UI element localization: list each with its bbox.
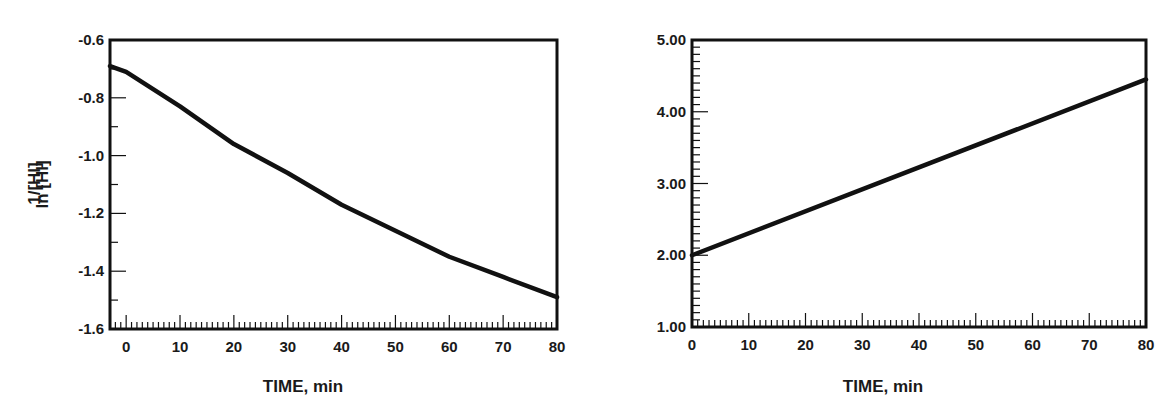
y-tick-label: 5.00 (657, 31, 686, 48)
plot-frame (692, 40, 1146, 327)
x-tick-label: 60 (1024, 336, 1041, 353)
x-tick-label: 70 (495, 338, 512, 355)
y-tick-label: -1.2 (78, 204, 104, 221)
y-tick-label: -0.8 (78, 89, 104, 106)
x-axis-title: TIME, min (843, 377, 923, 396)
x-tick-label: 50 (967, 336, 984, 353)
x-tick-label: 30 (854, 336, 871, 353)
y-tick-label: -0.6 (78, 31, 104, 48)
x-axis-title: TIME, min (263, 377, 343, 396)
x-tick-label: 10 (172, 338, 189, 355)
x-tick-label: 0 (122, 338, 130, 355)
x-tick-label: 50 (387, 338, 404, 355)
x-tick-label: 30 (279, 338, 296, 355)
y-tick-label: -1.6 (78, 320, 104, 337)
x-tick-label: 60 (441, 338, 458, 355)
x-tick-label: 0 (688, 336, 696, 353)
x-tick-label: 10 (740, 336, 757, 353)
y-tick-label: 2.00 (657, 246, 686, 263)
x-tick-label: 80 (549, 338, 566, 355)
y-axis-title: 1/[HI] (25, 162, 44, 205)
x-tick-label: 80 (1138, 336, 1155, 353)
x-tick-label: 20 (797, 336, 814, 353)
right-chart-inverse-hi: 010203040506070801.002.003.004.005.00TIM… (25, 31, 1154, 396)
x-tick-label: 70 (1081, 336, 1098, 353)
y-tick-label: -1.4 (78, 262, 105, 279)
y-tick-label: 4.00 (657, 103, 686, 120)
y-tick-label: -1.0 (78, 147, 104, 164)
y-tick-label: 3.00 (657, 175, 686, 192)
figure: 01020304050607080-0.6-0.8-1.0-1.2-1.4-1.… (0, 0, 1174, 404)
data-line (692, 79, 1146, 255)
data-line (110, 66, 557, 297)
left-chart-ln-hi: 01020304050607080-0.6-0.8-1.0-1.2-1.4-1.… (33, 31, 565, 396)
y-tick-label: 1.00 (657, 318, 686, 335)
plot-frame (110, 40, 557, 329)
x-tick-label: 40 (333, 338, 350, 355)
x-tick-label: 20 (226, 338, 243, 355)
x-tick-label: 40 (911, 336, 928, 353)
